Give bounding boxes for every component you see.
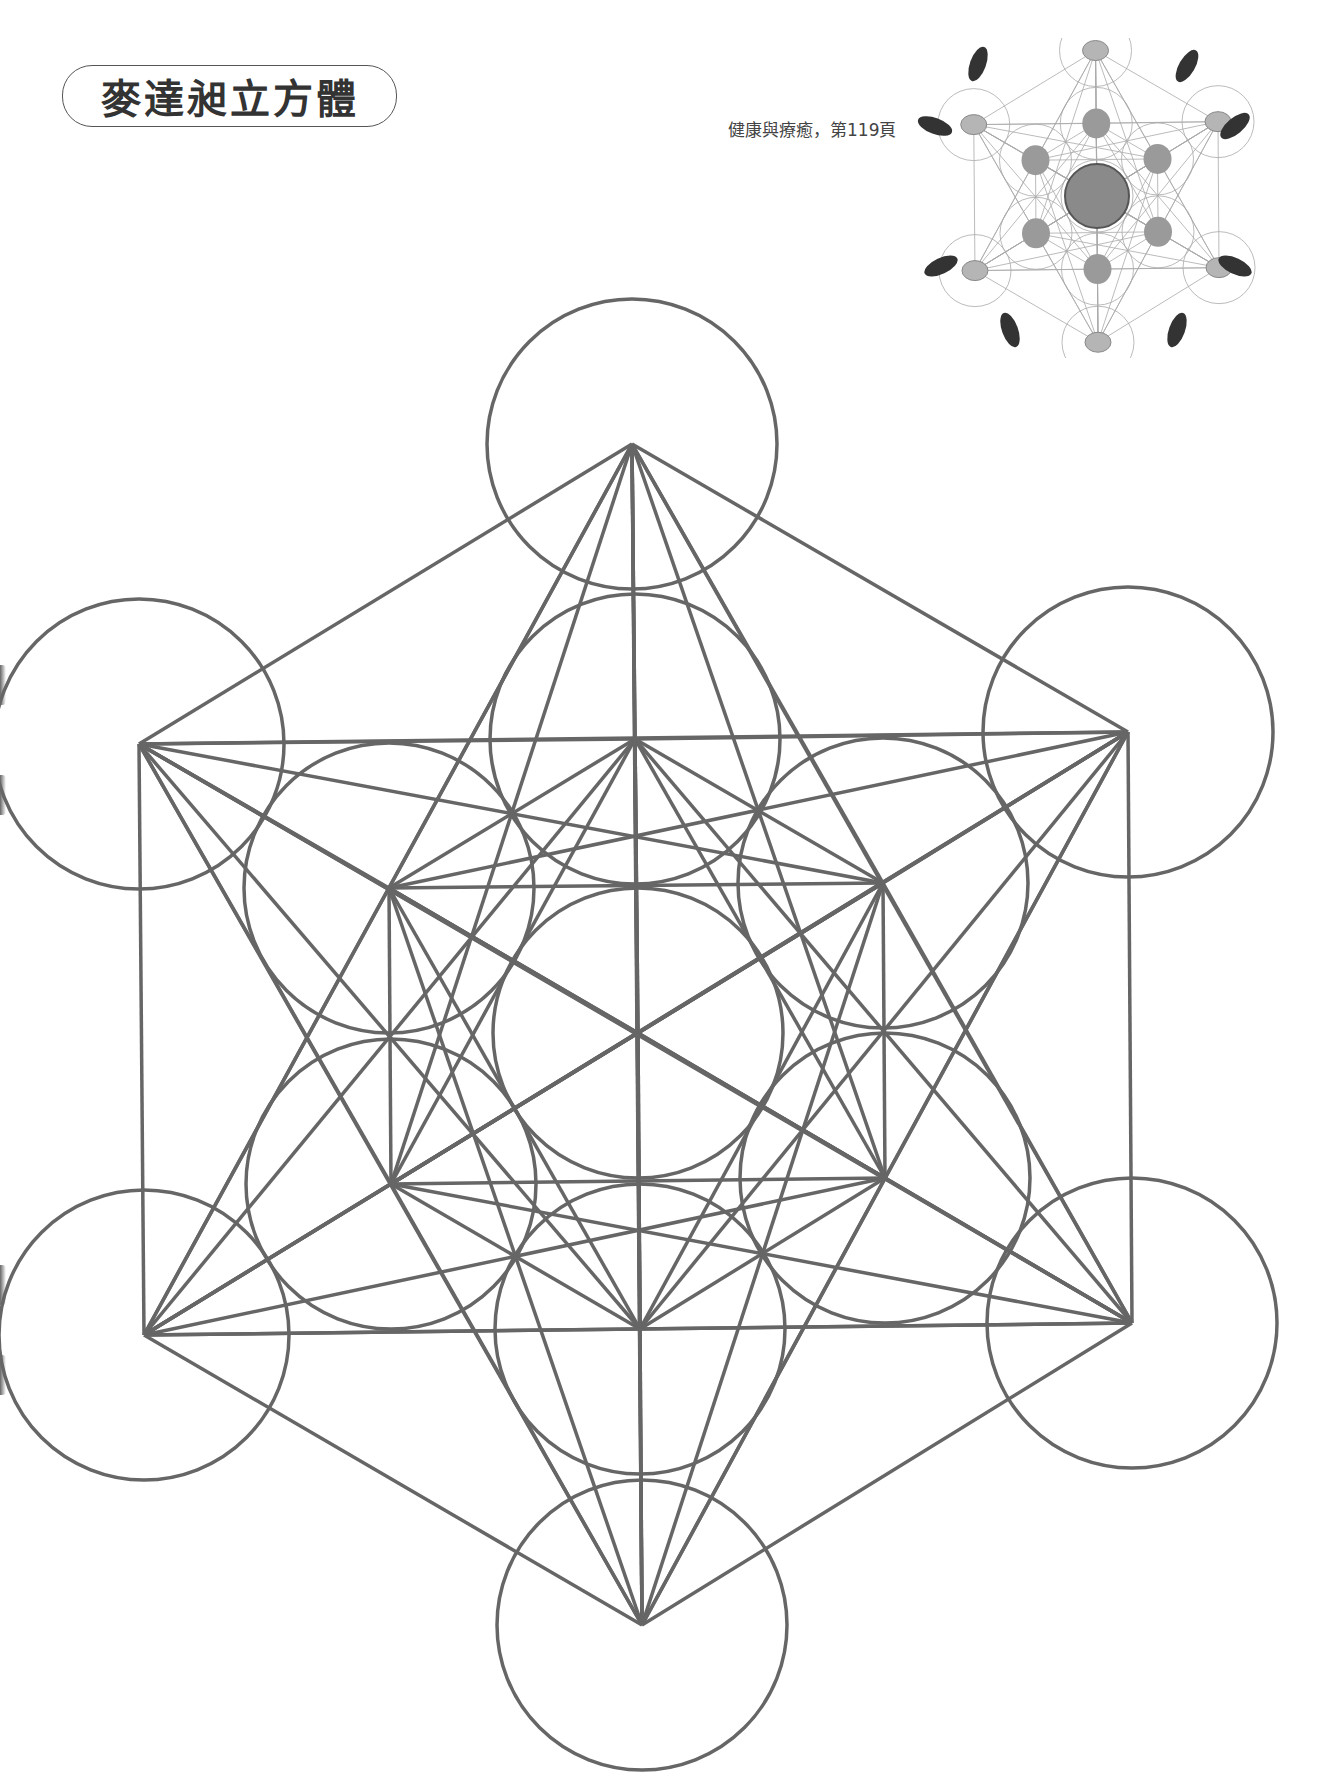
line [389, 888, 391, 1184]
line [139, 444, 632, 744]
line [139, 744, 144, 1335]
line [139, 744, 642, 1625]
metatrons-cube-diagram [0, 0, 1324, 1785]
line [144, 1335, 642, 1625]
binding-mark [0, 1265, 6, 1305]
line [389, 888, 642, 1625]
lines-group [139, 444, 1132, 1625]
line [632, 444, 1128, 732]
line [640, 732, 1128, 1329]
line [642, 1323, 1132, 1625]
binding-mark [0, 665, 6, 705]
binding-mark [0, 1355, 6, 1395]
binding-mark [0, 775, 6, 815]
line [1128, 732, 1132, 1323]
